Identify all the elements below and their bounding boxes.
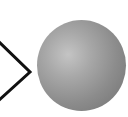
sphere-shape (37, 20, 126, 111)
